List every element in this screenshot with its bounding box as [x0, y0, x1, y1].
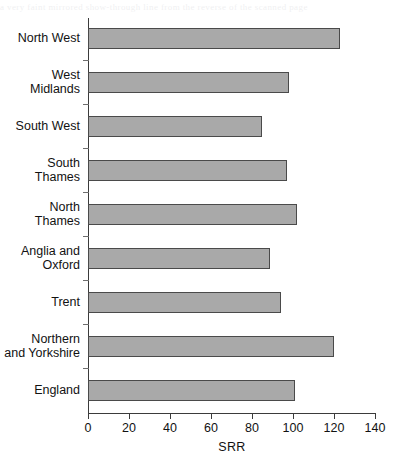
- y-axis-category-label-line: South West: [0, 119, 80, 134]
- bar: [88, 380, 295, 401]
- y-axis-tick: [83, 368, 89, 369]
- x-axis-title: SRR: [88, 440, 376, 454]
- y-axis-category-label: Trent: [0, 295, 80, 310]
- y-axis-category-label: SouthThames: [0, 156, 80, 185]
- y-axis-category-label-line: and Yorkshire: [0, 346, 80, 361]
- y-axis-tick: [83, 60, 89, 61]
- bar: [88, 292, 281, 313]
- y-axis-tick: [83, 148, 89, 149]
- bar-chart-figure: a very faint mirrored show-through line …: [0, 0, 406, 467]
- x-axis-tick: [129, 413, 130, 419]
- bar: [88, 28, 340, 49]
- bar: [88, 116, 262, 137]
- page-showthrough-artifact: a very faint mirrored show-through line …: [0, 3, 406, 14]
- y-axis-tick: [83, 280, 89, 281]
- y-axis-category-label-line: Trent: [0, 295, 80, 310]
- y-axis-tick: [83, 104, 89, 105]
- x-axis-tick: [252, 413, 253, 419]
- y-axis-tick: [83, 236, 89, 237]
- y-axis-category-label-line: England: [0, 383, 80, 398]
- y-axis-category-label: England: [0, 383, 80, 398]
- x-axis-tick-label: 100: [273, 421, 313, 435]
- bar: [88, 336, 334, 357]
- y-axis-category-label-line: South: [0, 156, 80, 171]
- y-axis-tick: [83, 324, 89, 325]
- plot-area: [88, 18, 375, 414]
- bar: [88, 204, 297, 225]
- x-axis-tick: [293, 413, 294, 419]
- y-axis-category-label-line: North: [0, 200, 80, 215]
- x-axis-tick-label: 40: [150, 421, 190, 435]
- y-axis-category-label-line: West: [0, 68, 80, 83]
- y-axis-category-label-line: North West: [0, 31, 80, 46]
- x-axis-tick: [88, 413, 89, 419]
- bar: [88, 248, 270, 269]
- bar: [88, 72, 289, 93]
- x-axis-tick-label: 20: [109, 421, 149, 435]
- y-axis-category-label: Anglia andOxford: [0, 244, 80, 273]
- y-axis-category-label-line: Oxford: [0, 258, 80, 273]
- y-axis-category-label: Northernand Yorkshire: [0, 332, 80, 361]
- x-axis-tick-label: 140: [355, 421, 395, 435]
- bar: [88, 160, 287, 181]
- y-axis-category-label: South West: [0, 119, 80, 134]
- y-axis-category-label-line: Anglia and: [0, 244, 80, 259]
- y-axis-category-label-line: Thames: [0, 170, 80, 185]
- x-axis-tick: [170, 413, 171, 419]
- y-axis-category-label-line: Midlands: [0, 82, 80, 97]
- x-axis-tick: [211, 413, 212, 419]
- y-axis-category-label: NorthThames: [0, 200, 80, 229]
- x-axis-tick: [375, 413, 376, 419]
- x-axis-tick-label: 120: [314, 421, 354, 435]
- y-axis-category-label: North West: [0, 31, 80, 46]
- x-axis-tick: [334, 413, 335, 419]
- y-axis-tick: [83, 192, 89, 193]
- y-axis-category-label: WestMidlands: [0, 68, 80, 97]
- x-axis-tick-label: 0: [68, 421, 108, 435]
- y-axis-category-label-line: Northern: [0, 332, 80, 347]
- x-axis-tick-label: 60: [191, 421, 231, 435]
- y-axis-category-label-line: Thames: [0, 214, 80, 229]
- x-axis-tick-label: 80: [232, 421, 272, 435]
